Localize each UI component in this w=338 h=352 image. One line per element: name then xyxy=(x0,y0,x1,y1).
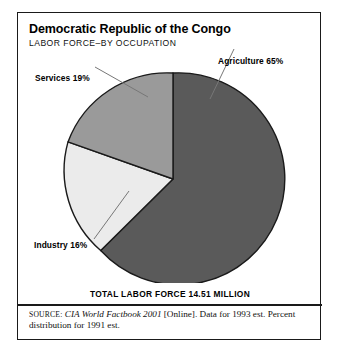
chart-figure: Democratic Republic of the Congo LABOR F… xyxy=(17,12,321,340)
slice-label-services: Services 19% xyxy=(35,73,90,83)
source-work-title: CIA World Factbook 2001 xyxy=(65,309,162,319)
pie-chart: Agriculture 65% Services 19% Industry 16… xyxy=(18,13,322,283)
total-labor-force-caption: TOTAL LABOR FORCE 14.51 MILLION xyxy=(18,289,322,299)
source-divider xyxy=(18,304,322,306)
source-note: SOURCE: CIA World Factbook 2001 [Online]… xyxy=(29,309,313,332)
slice-label-agriculture: Agriculture 65% xyxy=(218,56,283,66)
source-label: SOURCE: xyxy=(29,310,62,319)
slice-label-industry: Industry 16% xyxy=(34,240,87,250)
